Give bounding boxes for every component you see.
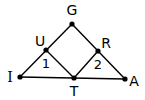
segment-UT: [46, 50, 74, 78]
label-U: U: [35, 33, 45, 49]
angle-labels: 1 2: [42, 56, 102, 72]
angle-label-2: 2: [94, 57, 102, 72]
geometry-diagram: G U R I T A 1 2: [0, 0, 145, 100]
label-R: R: [101, 35, 111, 51]
point-labels: G U R I T A: [7, 2, 139, 99]
angle-label-1: 1: [42, 56, 50, 71]
label-G: G: [67, 2, 78, 18]
label-T: T: [69, 83, 79, 99]
point-T: [71, 75, 76, 80]
point-R: [95, 48, 100, 53]
point-A: [122, 76, 127, 81]
label-A: A: [129, 73, 139, 89]
point-G: [69, 21, 74, 26]
point-I: [17, 74, 22, 79]
label-I: I: [7, 69, 13, 85]
points: [17, 21, 127, 81]
